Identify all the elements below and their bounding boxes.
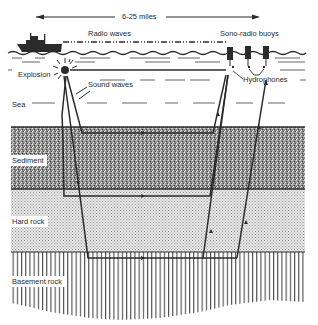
- explosion-label: Explosion: [18, 70, 51, 79]
- buoy-icon: [227, 47, 234, 68]
- hard-rock-label: Hard rock: [10, 216, 48, 227]
- ship-icon: [17, 33, 62, 52]
- distance-label: 6-25 miles: [122, 12, 157, 21]
- explosion-icon: [53, 58, 77, 79]
- basement-rock-label: Basement rock: [10, 276, 65, 287]
- sediment-layer: [11, 127, 305, 189]
- buoy-icon: [245, 46, 251, 68]
- hydrophones-label: Hydrophones: [243, 75, 288, 84]
- sea-surface: [8, 52, 306, 55]
- sediment-label: Sediment: [10, 155, 47, 166]
- buoy-icon: [263, 46, 269, 68]
- radio-waves-label: Radio waves: [88, 29, 131, 38]
- seismic-diagram: 6-25 miles Radio waves Sono-radio buoys …: [0, 0, 318, 325]
- sono-radio-buoys: [227, 46, 269, 68]
- sound-waves-label: Sound waves: [88, 80, 133, 89]
- sono-radio-buoys-label: Sono-radio buoys: [220, 29, 279, 38]
- sea-label: Sea: [12, 100, 25, 109]
- hard-rock-layer: [11, 189, 305, 252]
